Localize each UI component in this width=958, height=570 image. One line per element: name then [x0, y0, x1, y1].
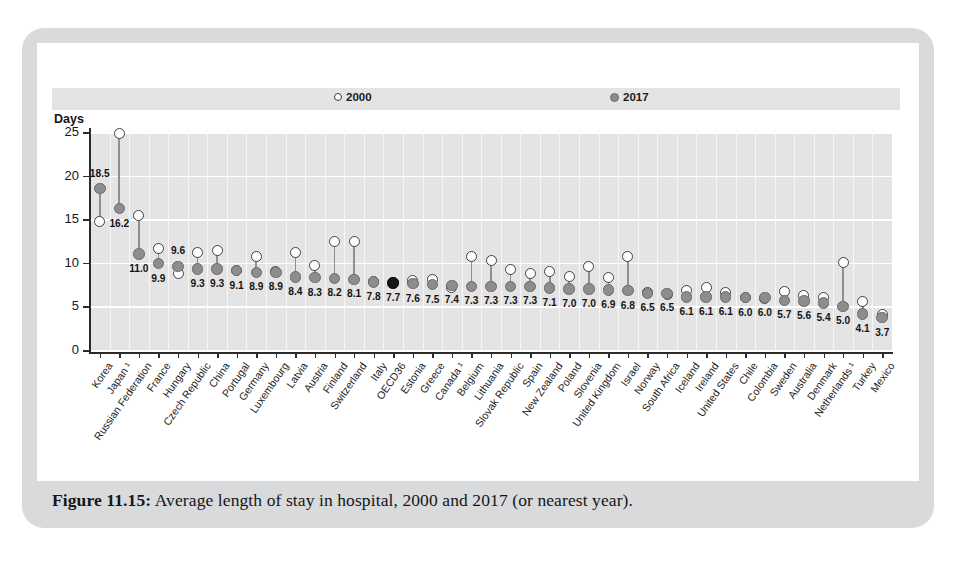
x-tick-mark	[139, 352, 140, 358]
gridline-x	[716, 132, 717, 350]
gridline-x	[149, 132, 150, 350]
data-value-label: 7.0	[582, 298, 596, 309]
data-value-label: 18.5	[90, 168, 110, 179]
gridline-x	[599, 132, 600, 350]
data-value-label: 7.4	[445, 294, 459, 305]
data-value-label: 6.0	[758, 307, 772, 318]
data-value-label: 9.1	[230, 280, 244, 291]
y-tick-label-20: 20	[52, 168, 79, 183]
marker-2017	[818, 297, 830, 309]
marker-2017	[172, 261, 184, 273]
marker-2017	[603, 284, 615, 296]
data-value-label: 9.9	[151, 273, 165, 284]
gridline-x	[266, 132, 267, 350]
gridline-x	[833, 132, 834, 350]
x-tick-mark	[256, 352, 257, 358]
marker-2017	[583, 283, 595, 295]
y-tick-mark	[83, 263, 90, 265]
marker-2017	[681, 291, 693, 303]
y-axis-line	[89, 128, 91, 354]
data-value-label: 7.7	[386, 292, 400, 303]
gridline-x	[775, 132, 776, 350]
gridline-x	[129, 132, 130, 350]
marker-2000	[192, 247, 203, 258]
marker-2017	[700, 291, 712, 303]
data-value-label: 6.5	[640, 302, 654, 313]
y-tick-label-15: 15	[52, 211, 79, 226]
gridline-x	[442, 132, 443, 350]
x-tick-mark	[158, 352, 159, 358]
marker-2017	[387, 277, 399, 289]
gridline-x	[618, 132, 619, 350]
gridline-x	[481, 132, 482, 350]
data-value-label: 8.4	[288, 286, 302, 297]
data-value-label: 8.9	[249, 281, 263, 292]
marker-2000	[486, 255, 497, 266]
data-value-label: 7.3	[523, 295, 537, 306]
marker-2017	[720, 291, 732, 303]
gridline-x	[207, 132, 208, 350]
x-tick-mark	[491, 352, 492, 358]
x-tick-mark	[765, 352, 766, 358]
data-value-label: 8.2	[327, 287, 341, 298]
gridline-x	[853, 132, 854, 350]
marker-2017	[798, 295, 810, 307]
marker-2017	[211, 263, 223, 275]
marker-2000	[603, 272, 614, 283]
gridline-x	[325, 132, 326, 350]
data-value-label: 16.2	[109, 218, 129, 229]
x-tick-mark	[589, 352, 590, 358]
gridline-x	[579, 132, 580, 350]
x-tick-mark	[315, 352, 316, 358]
open-circle-icon	[334, 93, 342, 101]
marker-2017	[192, 263, 204, 275]
x-tick-mark	[706, 352, 707, 358]
data-value-label: 6.5	[660, 302, 674, 313]
gridline-x	[540, 132, 541, 350]
y-tick-label-5: 5	[52, 298, 79, 313]
marker-2017	[485, 281, 497, 293]
caption-label: Figure 11.15:	[52, 490, 151, 510]
data-value-label: 8.9	[269, 281, 283, 292]
x-tick-mark	[432, 352, 433, 358]
data-value-label: 7.6	[406, 293, 420, 304]
marker-2000	[290, 247, 301, 258]
marker-2017	[368, 276, 380, 288]
x-tick-mark	[374, 352, 375, 358]
legend-label-2000: 2000	[346, 91, 372, 103]
data-value-label: 8.1	[347, 288, 361, 299]
x-tick-mark	[413, 352, 414, 358]
marker-2000	[525, 268, 536, 279]
data-value-label: 5.7	[777, 309, 791, 320]
x-tick-mark	[667, 352, 668, 358]
gridline-x	[736, 132, 737, 350]
data-value-label: 7.1	[543, 297, 557, 308]
data-value-label: 7.8	[367, 291, 381, 302]
marker-2017	[779, 295, 791, 307]
x-tick-mark	[393, 352, 394, 358]
gridline-x	[501, 132, 502, 350]
gridline-x	[188, 132, 189, 350]
x-tick-mark	[687, 352, 688, 358]
marker-2017	[524, 281, 536, 293]
data-value-label: 6.0	[738, 307, 752, 318]
gridline-y-25	[90, 132, 892, 134]
x-tick-mark	[882, 352, 883, 358]
data-value-label: 3.7	[875, 327, 889, 338]
marker-2017	[348, 274, 360, 286]
gridline-y-20	[90, 176, 892, 178]
x-tick-mark	[452, 352, 453, 358]
y-tick-mark	[83, 132, 90, 134]
y-tick-mark	[83, 350, 90, 352]
gridline-x	[383, 132, 384, 350]
x-tick-mark	[824, 352, 825, 358]
x-tick-mark	[530, 352, 531, 358]
gridline-x	[110, 132, 111, 350]
data-value-label: 5.4	[816, 312, 830, 323]
data-value-label: 6.1	[699, 306, 713, 317]
legend-entry-2017: 2017	[610, 91, 649, 103]
data-value-label: 9.6	[171, 245, 185, 256]
x-tick-mark	[726, 352, 727, 358]
marker-2000	[349, 236, 360, 247]
data-value-label: 6.9	[601, 299, 615, 310]
